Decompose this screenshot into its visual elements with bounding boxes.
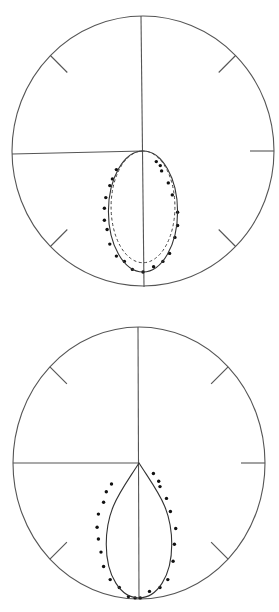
- data-point: [103, 219, 106, 222]
- data-point: [97, 512, 100, 515]
- polar-plot-bottom: [13, 327, 265, 600]
- tick-mark-135deg: [50, 367, 67, 384]
- data-point: [99, 550, 102, 553]
- data-point: [97, 537, 100, 540]
- data-point: [95, 526, 98, 529]
- data-point: [152, 265, 155, 268]
- data-point: [157, 480, 160, 483]
- data-point: [171, 193, 174, 196]
- axis-horizontal-left: [12, 151, 143, 154]
- data-point: [148, 590, 151, 593]
- data-point: [171, 560, 174, 563]
- tick-mark-45deg: [219, 56, 236, 73]
- data-point: [108, 242, 111, 245]
- tick-mark-135deg: [50, 56, 67, 73]
- tick-mark-225deg: [50, 542, 67, 559]
- data-point: [110, 482, 113, 485]
- data-point: [102, 565, 105, 568]
- data-point: [160, 169, 163, 172]
- tick-mark-315deg: [219, 230, 236, 247]
- data-point: [152, 472, 155, 475]
- data-point: [174, 527, 177, 530]
- data-point: [166, 578, 169, 581]
- figure: [0, 0, 279, 612]
- data-point: [155, 160, 158, 163]
- data-point: [173, 543, 176, 546]
- data-point: [102, 501, 105, 504]
- data-point: [158, 485, 161, 488]
- data-point: [167, 181, 170, 184]
- tick-mark-315deg: [211, 542, 228, 559]
- data-point: [165, 497, 168, 500]
- tick-mark-225deg: [50, 230, 67, 247]
- data-point: [109, 578, 112, 581]
- data-point: [103, 207, 106, 210]
- data-point: [105, 490, 108, 493]
- data-point: [169, 510, 172, 513]
- data-point: [159, 164, 162, 167]
- data-point: [104, 196, 107, 199]
- polar-plot-top: [12, 16, 274, 287]
- data-point: [115, 254, 118, 257]
- data-point: [105, 228, 108, 231]
- tick-mark-45deg: [211, 367, 228, 384]
